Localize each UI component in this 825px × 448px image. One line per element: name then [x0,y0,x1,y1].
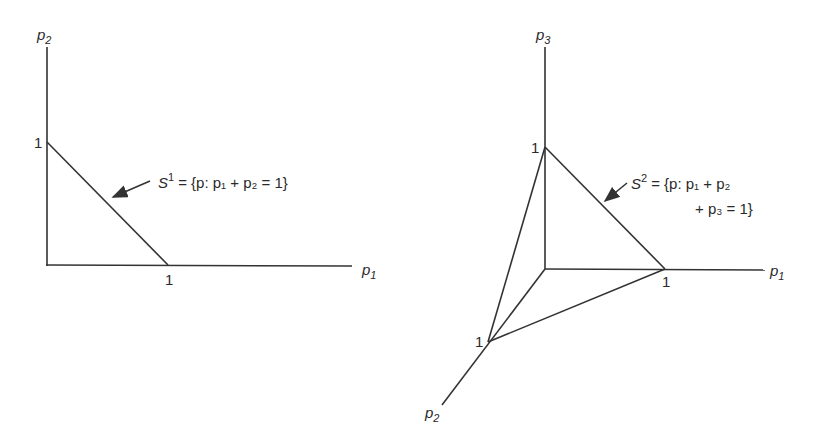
s1-pointer-arrow [113,181,150,197]
p3-axis-label: p3 [535,26,551,46]
s2-pointer-arrow [605,183,627,201]
s2-set-label-line2: + p₃ = 1} [695,200,753,217]
simplex-edge-p1-p2 [488,269,665,342]
s1-set-label: S1= {p: p₁ + p₂ = 1} [158,171,288,191]
p2-axis-label: p2 [36,26,51,46]
p1-axis [46,265,352,266]
p2-axis-label-3d: p2 [424,404,439,424]
p2-tick-one-3d: 1 [475,333,483,350]
p1-tick-one-3d: 1 [662,273,670,290]
p1-tick-one: 1 [165,271,173,288]
simplex-edge-p3-p1 [545,147,665,269]
s2-set-label-line1: S2= {p: p₁ + p₂ [631,172,731,192]
left-diagram-s1: p2 p1 1 1 S1= {p: p₁ + p₂ = 1} [34,26,376,288]
simplex-s1-line [47,142,168,265]
p1-axis-label: p1 [361,261,376,281]
right-diagram-s2: p3 p1 p2 1 1 1 S2= {p: p₁ + p₂ + p₃ = 1} [424,26,784,424]
p2-axis-3d [442,269,545,405]
p1-axis-label-3d: p1 [769,262,784,282]
simplex-diagram: p2 p1 1 1 S1= {p: p₁ + p₂ = 1} p3 p1 p2 … [0,0,825,448]
simplex-edge-p3-p2 [488,147,545,342]
p3-tick-one: 1 [531,139,539,156]
p2-tick-one: 1 [34,134,42,151]
p1-axis-3d [545,269,765,270]
